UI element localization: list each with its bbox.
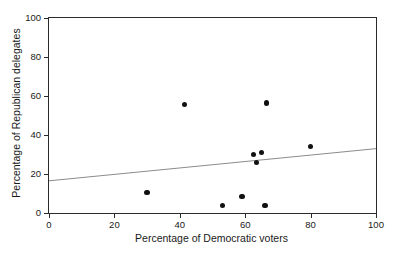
- y-tick: [44, 57, 49, 58]
- x-tick-label: 80: [305, 220, 316, 230]
- x-tick-label: 40: [175, 220, 186, 230]
- y-tick: [44, 135, 49, 136]
- y-tick: [44, 96, 49, 97]
- x-tick-label: 100: [368, 220, 384, 230]
- y-tick-label: 60: [30, 91, 41, 101]
- data-point: [239, 194, 244, 199]
- y-tick: [44, 18, 49, 19]
- data-point: [220, 203, 225, 208]
- y-tick: [44, 174, 49, 175]
- data-point: [262, 203, 267, 208]
- x-tick: [376, 213, 377, 218]
- y-tick-label: 20: [30, 169, 41, 179]
- y-tick-label: 80: [30, 52, 41, 62]
- scatter-plot-figure: 020406080100 020406080100 Percentage of …: [0, 0, 396, 257]
- x-tick: [245, 213, 246, 218]
- x-tick-label: 60: [240, 220, 251, 230]
- x-tick-label: 20: [109, 220, 120, 230]
- y-tick-label: 100: [25, 13, 41, 23]
- y-axis-label: Percentage of Republican delegates: [10, 13, 22, 213]
- x-tick: [311, 213, 312, 218]
- y-tick-label: 0: [36, 208, 41, 218]
- y-tick-label: 40: [30, 130, 41, 140]
- x-axis-label: Percentage of Democratic voters: [48, 232, 375, 244]
- data-point: [144, 190, 149, 195]
- x-tick-label: 0: [46, 220, 51, 230]
- data-point: [264, 100, 269, 105]
- x-tick: [114, 213, 115, 218]
- plot-area: 020406080100 020406080100: [48, 17, 377, 214]
- x-tick: [180, 213, 181, 218]
- trend-line: [49, 149, 376, 181]
- x-tick: [49, 213, 50, 218]
- plot-canvas: [49, 18, 376, 213]
